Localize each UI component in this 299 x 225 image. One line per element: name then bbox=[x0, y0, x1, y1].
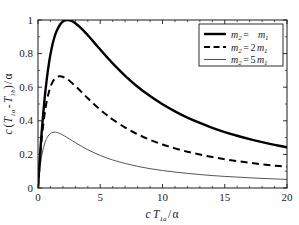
legend0-eq: = bbox=[243, 29, 249, 40]
legend2-rhs: m bbox=[257, 54, 264, 65]
legend2-coef: 5 bbox=[250, 54, 255, 65]
legend2-m-sub: 2 bbox=[238, 59, 242, 67]
x-tick-label: 15 bbox=[219, 191, 231, 203]
legend0-rhs-sub: 1 bbox=[265, 34, 269, 42]
chart-figure: 05101520 00.20.40.60.81 cT1a/α c(T1a-T1b… bbox=[0, 0, 299, 225]
x-tick-label: 5 bbox=[98, 191, 104, 203]
y-tick-label: 0 bbox=[28, 182, 34, 194]
x-title-c: c bbox=[145, 208, 150, 220]
legend1-m-sub: 2 bbox=[238, 47, 242, 55]
legend: m2=m1 m2=2m1 m2=5m1 bbox=[199, 24, 283, 67]
legend0-m: m bbox=[231, 29, 238, 40]
y-tick-label: 0.2 bbox=[19, 148, 33, 160]
legend1-rhs: m bbox=[257, 42, 264, 53]
svg-text:cT1a/α: cT1a/α bbox=[145, 208, 178, 223]
y-tick-label: 1 bbox=[28, 14, 34, 26]
y-tick-label: 0.6 bbox=[19, 81, 33, 93]
x-tick-label: 10 bbox=[157, 191, 169, 203]
y-title-T1-sub: 1a bbox=[9, 109, 17, 117]
x-tick-label: 20 bbox=[282, 191, 294, 203]
legend2-eq: = bbox=[243, 54, 249, 65]
x-title-T-sub: 1a bbox=[159, 215, 167, 223]
x-tick-label: 0 bbox=[35, 191, 41, 203]
y-title-slash: / bbox=[2, 80, 14, 84]
y-title-c: c bbox=[2, 129, 14, 134]
y-title-alpha: α bbox=[2, 73, 14, 79]
svg-text:c(T1a-T1b)/α: c(T1a-T1b)/α bbox=[2, 73, 17, 134]
y-title-T2-sub: 1b bbox=[9, 89, 17, 97]
x-title-slash: / bbox=[168, 208, 172, 220]
x-title-alpha: α bbox=[173, 208, 179, 220]
y-title-minus: - bbox=[2, 104, 14, 108]
legend2-rhs-sub: 1 bbox=[264, 59, 268, 67]
legend1-rhs-sub: 1 bbox=[264, 47, 268, 55]
legend1-coef: 2 bbox=[250, 42, 255, 53]
legend1-m: m bbox=[231, 42, 238, 53]
y-title-close: ) bbox=[2, 85, 15, 89]
x-axis-tick-labels: 05101520 bbox=[35, 191, 293, 203]
y-tick-label: 0.4 bbox=[19, 114, 33, 126]
legend2-m: m bbox=[231, 54, 238, 65]
x-axis-title: cT1a/α bbox=[145, 208, 178, 223]
line-chart: 05101520 00.20.40.60.81 cT1a/α c(T1a-T1b… bbox=[0, 0, 299, 225]
legend0-rhs: m bbox=[258, 29, 265, 40]
y-axis-title: c(T1a-T1b)/α bbox=[2, 73, 17, 134]
legend0-m-sub: 2 bbox=[238, 34, 242, 42]
y-tick-label: 0.8 bbox=[19, 47, 33, 59]
y-axis-tick-labels: 00.20.40.60.81 bbox=[19, 14, 33, 194]
legend1-eq: = bbox=[243, 42, 249, 53]
